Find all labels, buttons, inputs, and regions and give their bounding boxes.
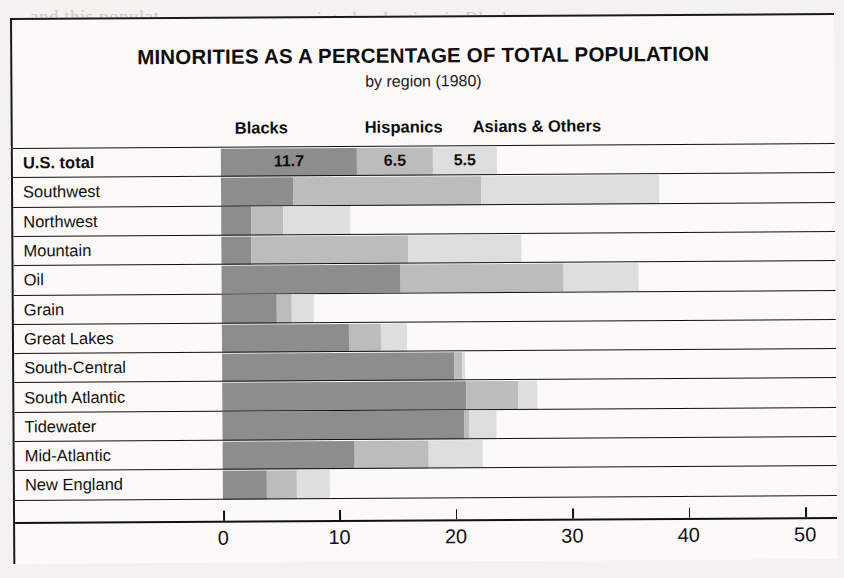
row-label-grain: Grain [24,300,64,319]
legend-item-hispanics: Hispanics [365,117,443,136]
bar-segment-hispanics [267,470,297,499]
x-axis-tick-label: 10 [328,526,350,549]
bar-segment-hispanics [276,295,291,324]
chart-frame: MINORITIES AS A PERCENTAGE OF TOTAL POPU… [10,13,837,564]
chart-subtitle: by region (1980) [12,70,834,93]
x-axis-tick [572,509,574,519]
bar-segment-blacks [222,324,349,353]
row-label-oil: Oil [24,271,44,290]
bar-segment-asians [297,470,330,499]
x-axis-tick [223,511,225,521]
x-axis-tick-label: 40 [678,524,700,547]
bar-segment-asians [429,440,483,469]
row-label-u-s-total: U.S. total [23,153,95,172]
row-label-south-central: South-Central [24,358,126,378]
bar-segment-asians [518,381,538,410]
chart-frame-inner: MINORITIES AS A PERCENTAGE OF TOTAL POPU… [12,15,837,564]
row-label-new-england: New England [25,475,123,495]
x-axis-tick [805,507,807,517]
x-axis-tick-label: 20 [445,525,467,548]
bar-segment-hispanics [354,440,429,469]
bar-segment-asians [292,294,314,323]
bar-segment-asians [481,175,659,205]
x-axis-tick-label: 0 [218,527,229,550]
chart-plot-area: U.S. total11.76.55.5SouthwestNorthwestMo… [13,143,837,500]
bar-segment-hispanics [454,352,462,381]
x-axis-line [15,517,837,524]
bar-segment-hispanics [293,176,481,206]
bar-value-label: 11.7 [274,152,304,170]
row-label-southwest: Southwest [23,182,100,201]
bar-segment-hispanics [401,264,564,293]
bar-segment-hispanics [252,235,409,264]
row-label-mid-atlantic: Mid-Atlantic [25,446,111,466]
x-axis-tick-label: 50 [794,523,816,546]
bar-value-label: 5.5 [454,151,476,169]
legend-item-asians-others: Asians & Others [473,116,601,136]
bar-segment-blacks [222,265,401,295]
bar-segment-blacks [222,381,467,411]
bar-segment-hispanics [467,381,518,410]
bar-segment-asians [462,352,466,381]
bar-segment-asians [283,206,351,235]
bar-segment-blacks [222,295,277,324]
bar-segment-blacks [221,236,251,265]
row-label-south-atlantic: South Atlantic [24,387,125,407]
x-axis-tick [456,509,458,519]
bar-segment-blacks [223,471,267,500]
bar-segment-blacks [222,352,454,382]
bar-value-label: 6.5 [384,152,406,170]
bar-segment-blacks [223,441,355,470]
bar-segment-asians [469,411,496,440]
x-axis-tick [339,510,341,520]
x-axis: 01020304050 [15,495,837,562]
bar-segment-asians [409,235,522,264]
bar-segment-asians [381,323,407,352]
bar-segment-blacks [221,177,293,206]
bar-segment-blacks [222,411,464,441]
x-axis-tick [689,508,691,518]
row-label-great-lakes: Great Lakes [24,329,114,349]
bar-segment-asians [564,263,639,292]
row-label-tidewater: Tidewater [24,417,96,436]
x-axis-tick-label: 30 [561,525,583,548]
row-label-northwest: Northwest [23,212,97,231]
bar-segment-hispanics [251,207,283,236]
chart-title: MINORITIES AS A PERCENTAGE OF TOTAL POPU… [12,41,834,70]
row-label-mountain: Mountain [23,241,91,260]
bar-segment-hispanics [349,323,382,352]
bar-segment-blacks [221,207,251,236]
legend-item-blacks: Blacks [235,118,288,137]
